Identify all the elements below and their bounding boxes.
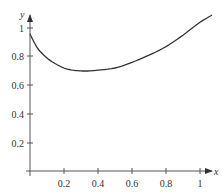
- x-tick-label: 1: [198, 178, 203, 189]
- chart: x y 0.2 0.4 0.6 0.8 1 0.2 0.4 0.6 0.8 1: [0, 0, 222, 193]
- x-tick-label: 0.8: [160, 178, 173, 189]
- x-axis-label: x: [213, 166, 219, 177]
- data-curve: [30, 15, 212, 71]
- y-tick-label: 1: [19, 23, 24, 34]
- x-tick-label: 0.2: [58, 178, 71, 189]
- y-tick-label: 0.4: [12, 109, 25, 120]
- x-tick-label: 0.4: [92, 178, 105, 189]
- y-axis-label: y: [19, 9, 25, 20]
- y-tick-label: 0.8: [12, 51, 25, 62]
- x-tick-label: 0.6: [126, 178, 139, 189]
- y-tick-label: 0.2: [12, 138, 25, 149]
- y-tick-label: 0.6: [12, 80, 25, 91]
